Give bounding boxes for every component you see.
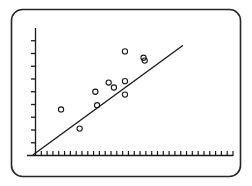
x-axis-tick-marks (36, 151, 234, 156)
scatter-plot-figure (0, 0, 252, 186)
plot-frame-border (12, 10, 241, 177)
figure-root (0, 0, 252, 186)
